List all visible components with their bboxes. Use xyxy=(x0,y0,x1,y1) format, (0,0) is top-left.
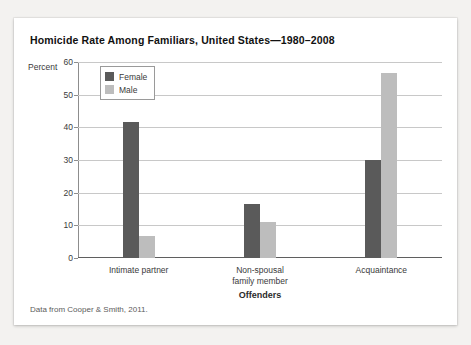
y-tick-label: 50 xyxy=(64,90,73,100)
y-tick-mark xyxy=(74,127,78,128)
chart-title: Homicide Rate Among Familiars, United St… xyxy=(30,34,335,46)
y-tick-mark xyxy=(74,95,78,96)
y-tick-label: 60 xyxy=(64,57,73,67)
chart-legend: Female Male xyxy=(100,66,155,100)
bar-female[interactable] xyxy=(365,160,381,258)
y-tick-label: 10 xyxy=(64,220,73,230)
legend-swatch-male-icon xyxy=(105,85,114,94)
bar-male[interactable] xyxy=(381,73,397,258)
legend-label-male: Male xyxy=(119,85,137,95)
figure-card: Homicide Rate Among Familiars, United St… xyxy=(14,18,457,325)
bar-male[interactable] xyxy=(139,236,155,258)
bar-male[interactable] xyxy=(260,222,276,258)
y-tick-mark xyxy=(74,160,78,161)
legend-swatch-female-icon xyxy=(105,72,114,81)
x-category-label: Acquaintance xyxy=(356,265,408,276)
y-tick-mark xyxy=(74,225,78,226)
y-axis-unit-label: Percent xyxy=(28,62,57,72)
source-note: Data from Cooper & Smith, 2011. xyxy=(30,305,148,314)
y-tick-mark xyxy=(74,193,78,194)
y-tick-mark xyxy=(74,62,78,63)
y-tick-label: 0 xyxy=(68,253,73,263)
x-category-label: Non-spousalfamily member xyxy=(232,265,288,287)
plot-area: 0102030405060 Intimate partnerNon-spousa… xyxy=(78,62,442,258)
bar-female[interactable] xyxy=(123,122,139,258)
x-axis-title: Offenders xyxy=(78,290,442,300)
y-tick-mark xyxy=(74,258,78,259)
legend-label-female: Female xyxy=(119,72,147,82)
x-category-label: Intimate partner xyxy=(109,265,169,276)
bar-group: Acquaintance xyxy=(365,62,397,258)
y-tick-label: 20 xyxy=(64,188,73,198)
legend-item-female: Female xyxy=(105,70,147,83)
y-tick-label: 40 xyxy=(64,122,73,132)
y-tick-label: 30 xyxy=(64,155,73,165)
legend-item-male: Male xyxy=(105,83,147,96)
bar-group: Non-spousalfamily member xyxy=(244,62,276,258)
bar-female[interactable] xyxy=(244,204,260,258)
